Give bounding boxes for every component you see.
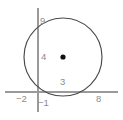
x-axis-label-3: 3 (60, 77, 65, 87)
circle-center-dot (60, 54, 65, 59)
y-axis-label-9: 9 (40, 16, 45, 26)
x-axis-label-negative-2: −2 (16, 94, 27, 104)
x-axis-label-8: 8 (96, 94, 101, 104)
y-axis-label-4: 4 (41, 52, 46, 62)
x-axis-label-negative-1: −1 (38, 98, 49, 108)
geometry-figure: 9 4 3 −2 −1 8 (0, 0, 123, 120)
